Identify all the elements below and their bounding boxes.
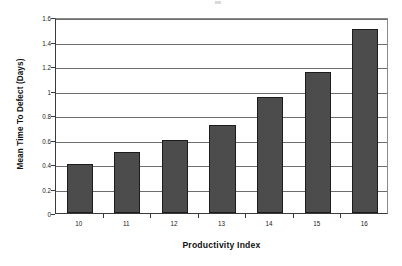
- x-tick-label: 15: [297, 220, 337, 228]
- bar: [257, 97, 283, 213]
- bar: [114, 152, 140, 213]
- gridline: [56, 44, 387, 45]
- x-tick-mark: [293, 214, 294, 218]
- x-tick-mark: [103, 214, 104, 218]
- gridline: [56, 117, 387, 118]
- y-tick-label: 0.4: [25, 162, 51, 169]
- x-tick-label: 11: [106, 220, 146, 228]
- plot-area: [55, 18, 388, 214]
- y-tick-label: 1: [25, 88, 51, 95]
- bar-chart-figure: Mean Time To Defect (Days) 00.20.40.60.8…: [0, 0, 402, 266]
- x-tick-label: 13: [202, 220, 242, 228]
- y-tick-label: 0.8: [25, 113, 51, 120]
- y-tick-label: 1.4: [25, 39, 51, 46]
- x-tick-label: 14: [249, 220, 289, 228]
- x-axis-title: Productivity Index: [55, 240, 388, 250]
- gridline: [56, 19, 387, 20]
- y-tick-label: 0: [25, 211, 51, 218]
- x-tick-mark: [340, 214, 341, 218]
- x-tick-mark: [245, 214, 246, 218]
- y-tick-label: 0.6: [25, 137, 51, 144]
- bar: [305, 72, 331, 213]
- y-tick-label: 1.2: [25, 64, 51, 71]
- bar: [352, 29, 378, 213]
- x-tick-label: 16: [344, 220, 384, 228]
- bar: [67, 164, 93, 213]
- bar: [209, 125, 235, 213]
- y-tick-mark: [51, 214, 55, 215]
- gridline: [56, 93, 387, 94]
- bar: [162, 140, 188, 214]
- y-tick-label: 0.2: [25, 186, 51, 193]
- scan-artifact: [215, 1, 221, 4]
- x-tick-mark: [150, 214, 151, 218]
- x-tick-mark: [198, 214, 199, 218]
- gridline: [56, 68, 387, 69]
- x-tick-label: 12: [154, 220, 194, 228]
- y-tick-label: 1.6: [25, 15, 51, 22]
- x-tick-label: 10: [59, 220, 99, 228]
